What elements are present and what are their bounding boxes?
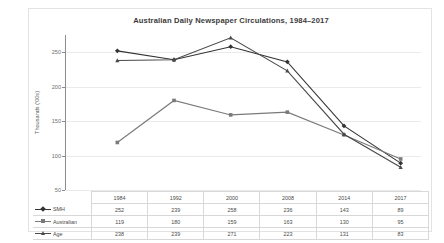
table-cell-australian-2008: 163 <box>260 216 316 228</box>
table-cell-age-2017: 83 <box>372 228 428 240</box>
legend-entry-smh: SMH <box>33 204 92 216</box>
table-cell-age-1992: 239 <box>148 228 204 240</box>
data-point-australian-1992 <box>172 99 176 103</box>
data-point-age-2000 <box>229 35 233 39</box>
table-column-header-2008: 2008 <box>260 192 316 204</box>
table-cell-australian-2014: 130 <box>316 216 372 228</box>
table-cell-age-1984: 238 <box>92 228 148 240</box>
chart-title: Australian Daily Newspaper Circulations,… <box>29 16 433 25</box>
table-cell-smh-1984: 252 <box>92 204 148 216</box>
series-line-smh <box>117 47 400 163</box>
table-cell-smh-2017: 89 <box>372 204 428 216</box>
legend-key-diamond-icon <box>35 206 51 213</box>
table-row: Australian11918015916313095 <box>33 216 429 228</box>
data-point-smh-2000 <box>228 44 233 49</box>
legend-entry-age: Age <box>33 228 92 240</box>
legend-label: Age <box>53 231 63 237</box>
table-body: SMH25223925823614389Australian1191801591… <box>33 204 429 240</box>
y-tick-label: 250 <box>52 49 61 55</box>
legend-label: Australian <box>53 219 77 225</box>
series-layer <box>65 35 421 190</box>
table-row: Age23823927122313183 <box>33 228 429 240</box>
legend-marker-triangle-icon <box>41 231 45 235</box>
table-cell-australian-2000: 159 <box>204 216 260 228</box>
data-table: 198419922000200820142017 SMH252239258236… <box>33 191 429 240</box>
legend-marker-diamond-icon <box>40 206 46 212</box>
data-point-australian-1984 <box>116 141 120 145</box>
table-cell-smh-2008: 236 <box>260 204 316 216</box>
table-header-row: 198419922000200820142017 <box>33 192 429 204</box>
table-column-header-1992: 1992 <box>148 192 204 204</box>
table-cell-australian-1984: 119 <box>92 216 148 228</box>
table-corner-cell <box>33 192 92 204</box>
plot-area: 50100150200250 <box>65 35 421 190</box>
legend-entry-australian: Australian <box>33 216 92 228</box>
table-cell-smh-1992: 239 <box>148 204 204 216</box>
legend-marker-square-icon <box>41 219 45 223</box>
table-cell-age-2014: 131 <box>316 228 372 240</box>
legend-key-triangle-icon <box>35 230 51 237</box>
data-point-australian-2008 <box>286 110 290 114</box>
table-column-header-1984: 1984 <box>92 192 148 204</box>
legend-label: SMH <box>53 206 65 212</box>
y-axis-title: Thousands ('00s) <box>34 0 44 35</box>
legend-key-square-icon <box>35 218 51 225</box>
table-column-header-2000: 2000 <box>204 192 260 204</box>
data-point-australian-2000 <box>229 113 233 117</box>
table-cell-smh-2000: 258 <box>204 204 260 216</box>
table-cell-smh-2014: 143 <box>316 204 372 216</box>
table-cell-age-2008: 223 <box>260 228 316 240</box>
table-column-header-2014: 2014 <box>316 192 372 204</box>
table-cell-australian-2017: 95 <box>372 216 428 228</box>
y-tick-label: 100 <box>52 153 61 159</box>
data-point-australian-2017 <box>399 157 403 161</box>
series-line-australian <box>117 100 400 159</box>
table-column-header-2017: 2017 <box>372 192 428 204</box>
table-cell-age-2000: 271 <box>204 228 260 240</box>
y-tick-label: 150 <box>52 118 61 124</box>
table-row: SMH25223925823614389 <box>33 204 429 216</box>
chart-container: Australian Daily Newspaper Circulations,… <box>28 8 432 232</box>
y-tick-label: 200 <box>52 84 61 90</box>
data-point-smh-1984 <box>115 48 120 53</box>
table-cell-australian-1992: 180 <box>148 216 204 228</box>
y-axis-title-label: Thousands ('00s) <box>34 35 40 190</box>
